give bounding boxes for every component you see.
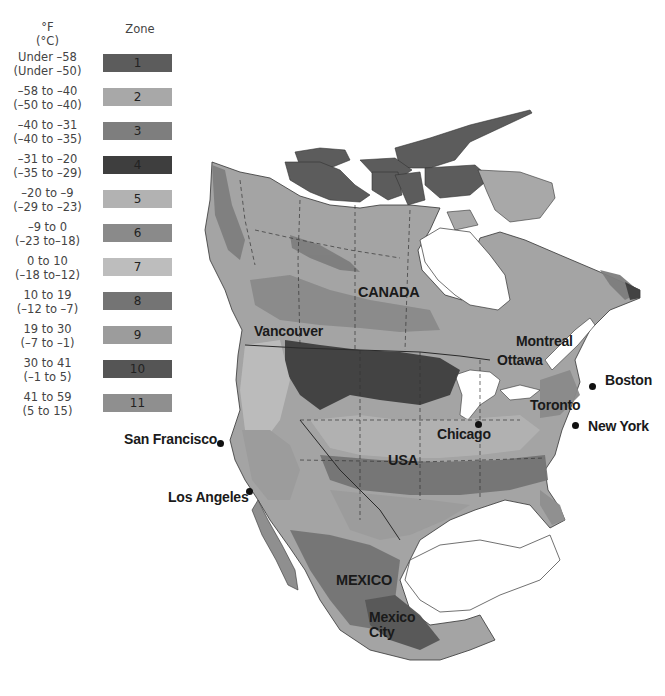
fahrenheit-label: °F — [0, 20, 95, 34]
zone-swatch: 11 — [103, 394, 172, 412]
zone-swatch: 7 — [103, 258, 172, 276]
city-label-boston: Boston — [605, 372, 652, 388]
zone-swatch: 9 — [103, 326, 172, 344]
legend-row-zone-10: 30 to 41(–1 to 5) 10 — [0, 356, 185, 390]
temperature-header: °F (°C) — [0, 20, 95, 48]
legend-row-zone-1: Under –58(Under –50) 1 — [0, 50, 185, 84]
range-label: 30 to 41(–1 to 5) — [0, 356, 95, 384]
city-label-chicago: Chicago — [437, 426, 491, 442]
country-label-mexico: MEXICO — [336, 572, 392, 588]
legend-row-zone-7: 0 to 10(–18 to–12) 7 — [0, 254, 185, 288]
zone-swatch: 8 — [103, 292, 172, 310]
baffin-island — [478, 170, 555, 222]
city-label-toronto: Toronto — [530, 397, 580, 413]
city-label-montreal: Montreal — [516, 333, 573, 349]
range-label: –20 to –9(–29 to –23) — [0, 186, 95, 214]
city-label-new-york: New York — [588, 418, 649, 434]
zone-swatch: 1 — [103, 54, 172, 72]
zone-swatch: 5 — [103, 190, 172, 208]
range-label: –31 to –20(–35 to –29) — [0, 152, 95, 180]
range-label: 19 to 30(–7 to –1) — [0, 322, 95, 350]
city-label-los-angeles: Los Angeles — [168, 489, 249, 505]
zone-swatch: 4 — [103, 156, 172, 174]
range-label: 41 to 59(5 to 15) — [0, 390, 95, 418]
range-label: –58 to –40(–50 to –40) — [0, 84, 95, 112]
celsius-label: (°C) — [0, 34, 95, 48]
city-marker-new-york — [572, 422, 579, 429]
zone-swatch: 2 — [103, 88, 172, 106]
legend-row-zone-2: –58 to –40(–50 to –40) 2 — [0, 84, 185, 118]
country-label-canada: CANADA — [358, 284, 420, 300]
zone-swatch: 3 — [103, 122, 172, 140]
range-label: Under –58(Under –50) — [0, 50, 95, 78]
range-label: –40 to –31(–40 to –35) — [0, 118, 95, 146]
country-label-usa: USA — [388, 452, 418, 468]
legend-row-zone-11: 41 to 59(5 to 15) 11 — [0, 390, 185, 424]
range-label: –9 to 0(–23 to–18) — [0, 220, 95, 248]
range-label: 0 to 10(–18 to–12) — [0, 254, 95, 282]
gulf-of-mexico — [405, 535, 560, 612]
city-label-ottawa: Ottawa — [497, 352, 542, 368]
city-label-san-francisco: San Francisco — [124, 431, 217, 447]
zone-swatch: 10 — [103, 360, 172, 378]
city-marker-san-francisco — [217, 440, 224, 447]
legend-row-zone-5: –20 to –9(–29 to –23) 5 — [0, 186, 185, 220]
legend-row-zone-4: –31 to –20(–35 to –29) 4 — [0, 152, 185, 186]
legend-row-zone-3: –40 to –31(–40 to –35) 3 — [0, 118, 185, 152]
range-label: 10 to 19(–12 to –7) — [0, 288, 95, 316]
city-label-vancouver: Vancouver — [254, 323, 323, 339]
legend-row-zone-8: 10 to 19(–12 to –7) 8 — [0, 288, 185, 322]
zone-header: Zone — [110, 22, 170, 36]
legend-row-zone-6: –9 to 0(–23 to–18) 6 — [0, 220, 185, 254]
city-marker-boston — [589, 383, 596, 390]
zone-swatch: 6 — [103, 224, 172, 242]
city-label-mexico-city: Mexico City — [369, 610, 419, 640]
legend-row-zone-9: 19 to 30(–7 to –1) 9 — [0, 322, 185, 356]
